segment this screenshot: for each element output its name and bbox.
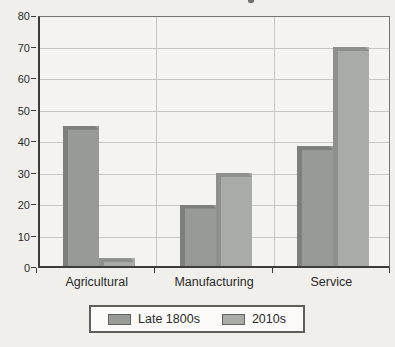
cropped-title-remnant: [248, 0, 254, 3]
category-label-manufacturing: Manufacturing: [155, 275, 272, 289]
y-tick-label-50: 50: [4, 105, 30, 117]
category-separator-2: [274, 17, 275, 266]
x-tick-1: [154, 268, 155, 273]
category-label-agricultural: Agricultural: [38, 275, 155, 289]
x-tick-3: [389, 268, 390, 273]
y-tick-label-70: 70: [4, 42, 30, 54]
legend-item-late-1800s: Late 1800s: [108, 312, 200, 326]
bar-service-2010s: [333, 47, 369, 266]
y-tick-label-30: 30: [4, 168, 30, 180]
x-tick-2: [272, 268, 273, 273]
y-tick-50: [31, 110, 36, 111]
y-tick-70: [31, 47, 36, 48]
y-tick-30: [31, 173, 36, 174]
y-tick-80: [31, 16, 36, 17]
plot-area: [38, 16, 390, 268]
y-tick-60: [31, 78, 36, 79]
legend-item-2010s: 2010s: [222, 312, 286, 326]
bar-manufacturing-late-1800s: [180, 205, 216, 266]
legend-label-2010s: 2010s: [252, 312, 286, 326]
y-tick-label-40: 40: [4, 136, 30, 148]
legend-swatch-late-1800s: [108, 314, 131, 325]
y-tick-label-60: 60: [4, 73, 30, 85]
y-tick-label-20: 20: [4, 199, 30, 211]
bar-manufacturing-2010s: [216, 173, 252, 266]
legend: Late 1800s 2010s: [89, 305, 305, 333]
bar-agricultural-late-1800s: [63, 126, 99, 266]
y-tick-20: [31, 204, 36, 205]
y-tick-10: [31, 236, 36, 237]
category-separator-1: [156, 17, 157, 266]
y-tick-label-0: 0: [4, 262, 30, 274]
bar-chart: 01020304050607080AgriculturalManufacturi…: [0, 0, 395, 347]
legend-swatch-2010s: [222, 314, 245, 325]
category-label-service: Service: [273, 275, 390, 289]
bar-agricultural-2010s: [99, 258, 135, 266]
bar-service-late-1800s: [297, 146, 333, 266]
y-tick-label-10: 10: [4, 231, 30, 243]
x-tick-0: [36, 268, 37, 273]
y-tick-40: [31, 141, 36, 142]
legend-label-late-1800s: Late 1800s: [138, 312, 200, 326]
y-tick-label-80: 80: [4, 10, 30, 22]
